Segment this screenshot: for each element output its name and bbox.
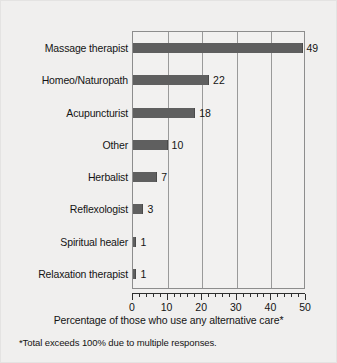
category-label: Other: [102, 139, 128, 151]
x-tick-label: 0: [129, 301, 135, 313]
x-tick-major: [132, 294, 133, 300]
bar-value-label: 1: [140, 236, 146, 248]
bar-row: Spiritual healer1: [133, 228, 304, 256]
bar: [133, 204, 143, 214]
chart-figure: Massage therapist49Homeo/Naturopath22Acu…: [0, 0, 337, 363]
bar-value-label: 18: [199, 107, 211, 119]
x-tick-minor: [160, 294, 161, 297]
x-tick-minor: [284, 294, 285, 297]
x-tick-minor: [257, 294, 258, 297]
x-tick-minor: [222, 294, 223, 297]
x-tick-minor: [208, 294, 209, 297]
bar-value-label: 1: [140, 268, 146, 280]
bar: [133, 75, 209, 85]
category-label: Relaxation therapist: [38, 268, 128, 280]
x-tick-major: [270, 294, 271, 300]
x-tick-major: [236, 294, 237, 300]
category-label: Homeo/Naturopath: [42, 74, 128, 86]
bar: [133, 140, 168, 150]
x-tick-label: 20: [195, 301, 207, 313]
bar: [133, 237, 136, 247]
bar-value-label: 10: [172, 139, 184, 151]
x-axis-title: Percentage of those who use any alternat…: [1, 314, 336, 327]
category-label: Massage therapist: [45, 42, 128, 54]
bar-value-label: 3: [147, 203, 153, 215]
x-tick-minor: [215, 294, 216, 297]
bar-value-label: 7: [161, 171, 167, 183]
bar-row: Acupuncturist18: [133, 99, 304, 127]
x-tick-minor: [187, 294, 188, 297]
x-tick-minor: [250, 294, 251, 297]
x-axis: 01020304050: [132, 293, 305, 300]
bar-row: Reflexologist3: [133, 195, 304, 223]
bar: [133, 172, 157, 182]
x-tick-label: 30: [230, 301, 242, 313]
bar-row: Herbalist7: [133, 163, 304, 191]
x-tick-major: [167, 294, 168, 300]
x-tick-minor: [174, 294, 175, 297]
bar: [133, 108, 195, 118]
category-label: Reflexologist: [70, 203, 128, 215]
category-label: Acupuncturist: [66, 107, 128, 119]
x-tick-minor: [194, 294, 195, 297]
x-tick-minor: [277, 294, 278, 297]
x-tick-minor: [298, 294, 299, 297]
bar: [133, 269, 136, 279]
x-tick-minor: [146, 294, 147, 297]
x-tick-minor: [263, 294, 264, 297]
x-tick-minor: [229, 294, 230, 297]
bar-row: Homeo/Naturopath22: [133, 66, 304, 94]
x-tick-label: 40: [265, 301, 277, 313]
x-tick-minor: [153, 294, 154, 297]
x-tick-major: [305, 294, 306, 300]
x-tick-label: 50: [299, 301, 311, 313]
x-tick-minor: [139, 294, 140, 297]
x-tick-minor: [291, 294, 292, 297]
category-label: Herbalist: [88, 171, 128, 183]
bar-value-label: 49: [307, 42, 319, 54]
bar-row: Relaxation therapist1: [133, 260, 304, 288]
plot-area: Massage therapist49Homeo/Naturopath22Acu…: [132, 31, 305, 289]
x-tick-label: 10: [161, 301, 173, 313]
category-label: Spiritual healer: [60, 236, 128, 248]
bar-row: Other10: [133, 131, 304, 159]
x-tick-major: [201, 294, 202, 300]
x-tick-minor: [180, 294, 181, 297]
x-tick-minor: [243, 294, 244, 297]
bar: [133, 43, 303, 53]
chart-footnote: *Total exceeds 100% due to multiple resp…: [19, 337, 217, 349]
bar-row: Massage therapist49: [133, 34, 304, 62]
bar-value-label: 22: [213, 74, 225, 86]
